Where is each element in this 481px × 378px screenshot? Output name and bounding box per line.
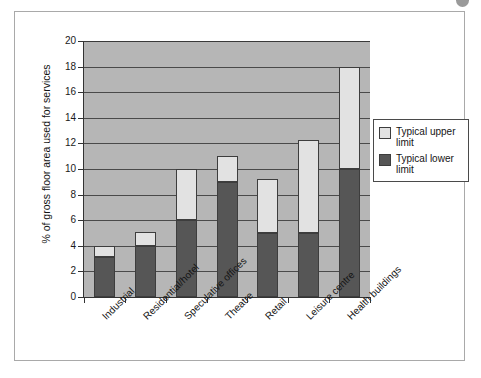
bar-leisure-centre[interactable] <box>298 140 319 297</box>
y-axis-tick-label: 10 <box>54 164 76 174</box>
gridline <box>84 41 370 42</box>
x-axis-line <box>83 297 371 298</box>
y-axis-tick <box>78 118 84 119</box>
y-axis-tick <box>78 41 84 42</box>
x-axis-tick <box>125 298 126 303</box>
corner-dot-decoration <box>456 0 469 7</box>
y-axis-tick-label: 2 <box>54 266 76 276</box>
x-axis-tick <box>207 298 208 303</box>
bar-health-buildings[interactable] <box>339 67 360 297</box>
chart-legend: Typical upper limitTypical lower limit <box>373 119 469 182</box>
bar-segment-lower-limit <box>94 257 115 297</box>
bar-segment-upper-limit <box>135 232 156 246</box>
y-axis-tick <box>78 271 84 272</box>
y-axis-title: % of gross floor area used for services <box>40 49 52 259</box>
y-axis-tick-label: 6 <box>54 215 76 225</box>
bar-segment-lower-limit <box>298 233 319 297</box>
y-axis-tick-label: 16 <box>54 87 76 97</box>
y-axis-tick-label: 12 <box>54 138 76 148</box>
gridline <box>84 67 370 68</box>
x-axis-tick <box>329 298 330 303</box>
y-axis-tick-label: 4 <box>54 241 76 251</box>
gridline <box>84 92 370 93</box>
x-axis-tick <box>166 298 167 303</box>
bar-speculative-offices[interactable] <box>176 169 197 297</box>
bar-segment-lower-limit <box>257 233 278 297</box>
x-axis-tick <box>84 298 85 303</box>
bar-segment-upper-limit <box>176 169 197 220</box>
bar-industrial[interactable] <box>94 246 115 297</box>
bar-segment-upper-limit <box>339 67 360 169</box>
y-axis-tick <box>78 195 84 196</box>
legend-item-label: Typical lower limit <box>396 153 463 175</box>
y-axis-tick <box>78 246 84 247</box>
y-axis-tick-label: 0 <box>54 292 76 302</box>
bar-segment-upper-limit <box>94 246 115 258</box>
x-axis-tick-label: Retail <box>263 296 289 322</box>
bar-segment-lower-limit <box>176 220 197 297</box>
gridline <box>84 143 370 144</box>
x-axis-tick <box>288 298 289 303</box>
legend-item[interactable]: Typical upper limit <box>379 126 463 148</box>
bar-retail[interactable] <box>257 179 278 297</box>
y-axis-tick-label: 20 <box>54 36 76 46</box>
y-axis-tick-label: 18 <box>54 62 76 72</box>
y-axis-tick-label: 8 <box>54 190 76 200</box>
x-axis-tick <box>370 298 371 303</box>
bar-segment-upper-limit <box>298 140 319 233</box>
gridline <box>84 118 370 119</box>
y-axis-tick <box>78 92 84 93</box>
y-axis-tick-label: 14 <box>54 113 76 123</box>
bar-segment-lower-limit <box>217 182 238 297</box>
legend-swatch-icon <box>379 154 391 166</box>
legend-item-label: Typical upper limit <box>396 126 463 148</box>
bar-segment-upper-limit <box>257 179 278 233</box>
y-axis-tick <box>78 169 84 170</box>
bar-segment-lower-limit <box>135 246 156 297</box>
bar-segment-lower-limit <box>339 169 360 297</box>
x-axis-tick <box>247 298 248 303</box>
figure-frame: 02468101214161820 % of gross floor area … <box>14 11 465 361</box>
legend-item[interactable]: Typical lower limit <box>379 153 463 175</box>
y-axis-tick <box>78 143 84 144</box>
bar-theatre[interactable] <box>217 156 238 297</box>
legend-swatch-icon <box>379 127 391 139</box>
y-axis-tick <box>78 220 84 221</box>
bar-residential-hotel[interactable] <box>135 232 156 297</box>
y-axis-tick-labels: 02468101214161820 <box>51 12 76 378</box>
y-axis-tick <box>78 67 84 68</box>
bar-segment-upper-limit <box>217 156 238 182</box>
